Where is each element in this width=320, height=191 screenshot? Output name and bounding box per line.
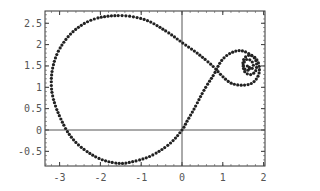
curve-dot <box>182 126 185 129</box>
curve-dot <box>210 77 213 80</box>
curve-dot <box>158 26 161 29</box>
curve-dot <box>178 39 181 42</box>
curve-dot <box>258 68 261 71</box>
curve-dot <box>218 62 221 65</box>
curve-dot <box>80 146 83 149</box>
curve-dot <box>231 51 234 54</box>
curve-dot <box>258 71 261 74</box>
curve-dot <box>55 108 58 111</box>
curve-dot <box>196 101 199 104</box>
curve-dot <box>208 80 211 83</box>
curve-dot <box>59 117 62 120</box>
curve-dot <box>185 120 188 123</box>
curve-dot <box>201 56 204 59</box>
curve-dot <box>244 50 247 53</box>
curve-dot <box>249 73 252 76</box>
curve-dot <box>62 41 65 44</box>
curve-dot <box>88 152 91 155</box>
curve-dot <box>56 111 59 114</box>
curve-dot <box>52 63 55 66</box>
curve-dot <box>117 14 120 17</box>
curve-dot <box>252 64 255 67</box>
curve-dots <box>50 14 261 165</box>
curve-dot <box>110 14 113 17</box>
curve-dot <box>216 70 219 73</box>
curve-dot <box>184 123 187 126</box>
curve-dot <box>151 153 154 156</box>
curve-dot <box>114 161 117 164</box>
curve-dot <box>202 89 205 92</box>
curve-dot <box>173 35 176 38</box>
curve-dot <box>143 18 146 21</box>
curve-dot <box>258 65 261 68</box>
curve-dot <box>83 22 86 25</box>
curve-dot <box>201 92 204 95</box>
curve-dot <box>71 30 74 33</box>
x-tick-label: -1 <box>135 172 147 183</box>
curve-dot <box>86 150 89 153</box>
curve-dot <box>77 26 80 29</box>
curve-dot <box>50 77 53 80</box>
curve-dot <box>219 73 222 76</box>
curve-dot <box>176 134 179 137</box>
curve-dot <box>53 101 56 104</box>
curve-dot <box>214 68 217 71</box>
curve-dot <box>227 80 230 83</box>
curve-dot <box>77 143 80 146</box>
x-tick-label: 1 <box>220 172 226 183</box>
curve-dot <box>198 54 201 57</box>
curve-dot <box>155 24 158 27</box>
curve-dot <box>134 159 137 162</box>
curve-dot <box>246 83 249 86</box>
curve-dot <box>74 141 77 144</box>
curve-dot <box>163 146 166 149</box>
curve-dot <box>149 21 152 24</box>
curve-dot <box>209 63 212 66</box>
curve-dot <box>255 58 258 61</box>
curve-dot <box>96 16 99 19</box>
curve-dot <box>190 47 193 50</box>
curve-dot <box>93 17 96 20</box>
curve-dot <box>256 75 259 78</box>
curve-dot <box>64 127 67 130</box>
curve-dot <box>252 72 255 75</box>
curve-dot <box>113 14 116 17</box>
x-tick-labels: -3-2-1012 <box>54 172 267 183</box>
curve-dot <box>242 65 245 68</box>
curve-dot <box>233 83 236 86</box>
curve-dot <box>228 52 231 55</box>
x-tick-label: -2 <box>94 172 106 183</box>
curve-dot <box>257 61 260 64</box>
x-tick-label: 2 <box>261 172 267 183</box>
curve-dot <box>50 87 53 90</box>
curve-dot <box>236 83 239 86</box>
plot-frame <box>45 11 265 166</box>
curve-dot <box>184 43 187 46</box>
curve-dot <box>246 72 249 75</box>
curve-dot <box>60 44 63 47</box>
curve-dot <box>193 49 196 52</box>
curve-dot <box>251 60 254 63</box>
curve-dot <box>255 77 258 80</box>
curve-dot <box>178 131 181 134</box>
curve-dot <box>166 144 169 147</box>
curve-dot <box>248 58 251 61</box>
curve-dot <box>64 38 67 41</box>
curve-dot <box>107 160 110 163</box>
curve-dot <box>157 150 160 153</box>
curve-dot <box>59 46 62 49</box>
curve-dot <box>167 31 170 34</box>
curve-dot <box>250 82 253 85</box>
curve-dot <box>70 136 73 139</box>
curve-dot <box>101 158 104 161</box>
curve-dot <box>171 139 174 142</box>
curve-dot <box>132 15 135 18</box>
curve-dot <box>51 66 54 69</box>
curve-dot <box>187 45 190 48</box>
curve-dot <box>224 78 227 81</box>
curve-dot <box>181 41 184 44</box>
curve-dot <box>91 154 94 157</box>
curve-dot <box>94 155 97 158</box>
curve-dot <box>72 138 75 141</box>
curve-dot <box>250 54 253 57</box>
